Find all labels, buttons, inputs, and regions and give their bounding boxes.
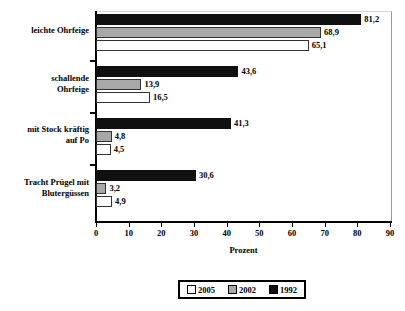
x-axis-tick [292, 223, 293, 227]
category-label: schallendeOhrfeige [0, 73, 89, 95]
category-label-line: mit Stock kräftig [0, 124, 89, 135]
legend-item-1992[interactable]: 1992 [269, 285, 297, 295]
x-axis-tick-label: 20 [149, 228, 173, 238]
legend: 2005 2002 1992 [178, 280, 306, 299]
bar-value-label: 4,9 [115, 196, 126, 207]
category-separator-tick [90, 164, 95, 166]
bar-1992 [96, 14, 361, 25]
x-axis-tick [357, 223, 358, 227]
bar-value-label: 43,6 [241, 66, 256, 77]
legend-swatch-1992-icon [269, 285, 278, 294]
legend-swatch-2002-icon [228, 285, 237, 294]
bar-2002 [96, 79, 141, 90]
x-axis-tick-label: 90 [378, 228, 402, 238]
bar-value-label: 3,2 [109, 183, 120, 194]
bar-2002 [96, 27, 321, 38]
x-axis-tick-label: 60 [280, 228, 304, 238]
x-axis-tick-label: 0 [84, 228, 108, 238]
x-axis-tick-label: 50 [247, 228, 271, 238]
x-axis-tick-label: 30 [182, 228, 206, 238]
x-axis-tick-label: 80 [345, 228, 369, 238]
category-separator-tick [90, 60, 95, 62]
legend-label-2002: 2002 [239, 285, 256, 295]
bar-1992 [96, 66, 238, 77]
legend-swatch-2005-icon [187, 285, 196, 294]
x-axis-line [95, 221, 392, 223]
x-axis-tick [325, 223, 326, 227]
bar-2002 [96, 183, 106, 194]
x-axis-tick [227, 223, 228, 227]
category-label-line: Ohrfeige [0, 84, 89, 95]
legend-label-1992: 1992 [280, 285, 297, 295]
legend-label-2005: 2005 [198, 285, 215, 295]
x-axis-tick [161, 223, 162, 227]
bar-value-label: 81,2 [364, 14, 379, 25]
category-label: Tracht Prügel mitBlutergüssen [0, 177, 89, 199]
bar-2005 [96, 40, 309, 51]
bar-2005 [96, 196, 112, 207]
x-axis-tick [259, 223, 260, 227]
bar-1992 [96, 118, 231, 129]
x-axis-tick [390, 223, 391, 227]
x-axis-title: Prozent [95, 245, 392, 255]
bar-2002 [96, 131, 112, 142]
x-axis-tick-label: 10 [117, 228, 141, 238]
bar-value-label: 41,3 [234, 118, 249, 129]
legend-item-2005[interactable]: 2005 [187, 285, 215, 295]
category-label-line: Tracht Prügel mit [0, 177, 89, 188]
bar-2005 [96, 92, 150, 103]
category-separator-tick [90, 112, 95, 114]
bar-value-label: 4,8 [115, 131, 126, 142]
bar-value-label: 68,9 [324, 27, 339, 38]
category-label: mit Stock kräftigauf Po [0, 124, 89, 146]
category-label: leichte Ohrfeige [0, 25, 89, 36]
x-axis-tick [194, 223, 195, 227]
category-label-line: leichte Ohrfeige [0, 25, 89, 36]
x-axis-tick [129, 223, 130, 227]
bar-2005 [96, 144, 111, 155]
category-label-line: auf Po [0, 135, 89, 146]
category-label-line: Blutergüssen [0, 188, 89, 199]
bar-value-label: 4,5 [114, 144, 125, 155]
bar-value-label: 13,9 [144, 79, 159, 90]
legend-item-2002[interactable]: 2002 [228, 285, 256, 295]
bar-value-label: 30,6 [199, 170, 214, 181]
x-axis-tick [96, 223, 97, 227]
x-axis-tick-label: 40 [215, 228, 239, 238]
bar-value-label: 16,5 [153, 92, 168, 103]
bar-chart: leichte OhrfeigeschallendeOhrfeigemit St… [0, 0, 405, 311]
x-axis-tick-label: 70 [313, 228, 337, 238]
category-label-line: schallende [0, 73, 89, 84]
bar-value-label: 65,1 [312, 40, 327, 51]
bar-1992 [96, 170, 196, 181]
